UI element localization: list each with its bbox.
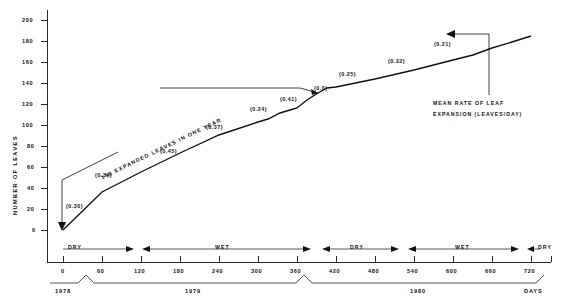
y-tick-120: 120: [22, 101, 33, 107]
x-tick-480: 480: [368, 268, 379, 274]
y-tick-180: 180: [22, 38, 33, 44]
x-tick-720: 720: [524, 268, 535, 274]
season-label-dry-2: DRY: [350, 244, 364, 250]
x-tick-120: 120: [134, 268, 145, 274]
y-tick-80: 80: [27, 143, 35, 149]
year-brackets: [50, 275, 544, 283]
season-label-wet-1: WET: [215, 244, 230, 250]
x-tick-360: 360: [290, 268, 301, 274]
y-tick-20: 20: [27, 206, 35, 212]
origin-arrow: [58, 152, 118, 231]
year-label-1978: 1978: [55, 288, 71, 294]
x-tick-240: 240: [212, 268, 223, 274]
x-tick-0: 0: [61, 268, 65, 274]
x-tick-420: 420: [329, 268, 340, 274]
x-tick-60: 60: [97, 268, 105, 274]
chart-figure: NUMBER OF LEAVES 200 180 160 140 120 100…: [0, 0, 566, 305]
y-tick-100: 100: [22, 122, 33, 128]
chart-canvas: [0, 0, 566, 305]
rate-label-8: (0.32): [388, 58, 405, 64]
y-tick-60: 60: [27, 164, 35, 170]
rate-label-4: (0.24): [250, 106, 267, 112]
x-tick-600: 600: [446, 268, 457, 274]
x-tick-180: 180: [173, 268, 184, 274]
season-label-dry-3: DRY: [538, 244, 552, 250]
callout-leader-line: [446, 30, 489, 95]
y-tick-40: 40: [27, 185, 35, 191]
x-tick-540: 540: [407, 268, 418, 274]
y-axis-title: NUMBER OF LEAVES: [12, 135, 18, 215]
one-year-leader-line: [160, 88, 318, 95]
rate-label-6: (0.0): [314, 85, 328, 91]
season-label-wet-2: WET: [455, 244, 470, 250]
rate-label-9: (0.21): [434, 41, 451, 47]
season-label-dry-1: DRY: [68, 244, 82, 250]
callout-line-2: EXPANSION (LEAVES/DAY): [433, 111, 522, 117]
callout-line-1: MEAN RATE OF LEAF: [433, 100, 504, 106]
y-tick-140: 140: [22, 80, 33, 86]
rate-label-5: (0.41): [280, 96, 297, 102]
x-axis-title: DAYS: [524, 288, 543, 294]
x-tick-660: 660: [485, 268, 496, 274]
y-tick-160: 160: [22, 59, 33, 65]
x-tick-300: 300: [251, 268, 262, 274]
year-label-1980: 1980: [410, 288, 426, 294]
data-series-cumulative-leaves: [63, 36, 531, 230]
y-tick-0: 0: [32, 227, 36, 233]
year-label-1979: 1979: [185, 288, 201, 294]
rate-label-0: (0.30): [66, 203, 83, 209]
rate-label-7: (0.25): [339, 71, 356, 77]
y-tick-200: 200: [22, 17, 33, 23]
